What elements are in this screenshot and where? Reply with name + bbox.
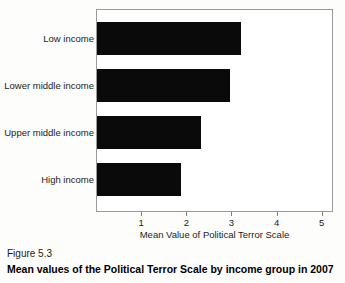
x-tick-mark-5 [322,212,323,216]
x-axis-title: Mean Value of Political Terror Scale [96,229,333,240]
x-tick-mark-2 [186,212,187,216]
x-tick-label-1: 1 [131,217,151,228]
x-tick-label-3: 3 [221,217,241,228]
x-tick-label-2: 2 [176,217,196,228]
figure-container: Low income Lower middle income Upper mid… [0,0,345,283]
plot-area [96,9,333,212]
figure-number: Figure 5.3 [7,247,342,260]
category-label-high-income: High income [4,174,94,185]
category-label-lower-middle-income: Lower middle income [4,80,94,91]
bar-lower-middle-income [97,69,230,102]
x-tick-mark-1 [141,212,142,216]
x-tick-label-4: 4 [267,217,287,228]
bar-high-income [97,163,181,196]
x-tick-mark-3 [231,212,232,216]
x-tick-mark-4 [277,212,278,216]
category-label-low-income: Low income [4,33,94,44]
x-tick-label-5: 5 [312,217,332,228]
bar-low-income [97,22,241,55]
category-label-upper-middle-income: Upper middle income [4,127,94,138]
figure-title: Mean values of the Political Terror Scal… [7,262,342,276]
bar-upper-middle-income [97,116,201,149]
caption-block: Figure 5.3 Mean values of the Political … [7,247,342,276]
